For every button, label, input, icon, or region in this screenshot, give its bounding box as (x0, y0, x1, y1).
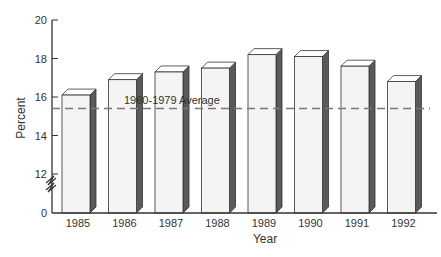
x-tick-label: 1989 (252, 217, 276, 229)
bar-1991 (341, 60, 375, 213)
bar-1987 (155, 66, 189, 213)
bar-1988 (202, 62, 236, 213)
x-axis-title: Year (253, 232, 277, 246)
y-tick-label: 16 (35, 91, 47, 103)
bar-1990 (295, 51, 329, 213)
x-tick-label: 1987 (159, 217, 183, 229)
bar-1989 (248, 49, 282, 213)
bar-chart: 01214161820 1985198619871988198919901991… (0, 0, 441, 257)
y-tick-label: 20 (35, 14, 47, 26)
bar-1985 (62, 89, 96, 213)
y-tick-label: 0 (41, 207, 47, 219)
y-tick-label: 14 (35, 130, 47, 142)
y-axis-title: Percent (14, 97, 28, 139)
x-tick-label: 1991 (345, 217, 369, 229)
y-tick-label: 18 (35, 53, 47, 65)
x-tick-label: 1990 (298, 217, 322, 229)
bars-group (62, 49, 422, 213)
bar-1992 (388, 76, 422, 213)
axis-break-icon (46, 176, 56, 185)
x-tick-label: 1992 (391, 217, 415, 229)
x-ticks: 19851986198719881989199019911992 (66, 217, 416, 229)
x-tick-label: 1985 (66, 217, 90, 229)
axis-break-icon (46, 183, 56, 192)
reference-line-label: 1960-1979 Average (124, 94, 220, 106)
x-tick-label: 1988 (205, 217, 229, 229)
x-tick-label: 1986 (112, 217, 136, 229)
y-tick-label: 12 (35, 168, 47, 180)
y-ticks: 01214161820 (35, 14, 58, 219)
